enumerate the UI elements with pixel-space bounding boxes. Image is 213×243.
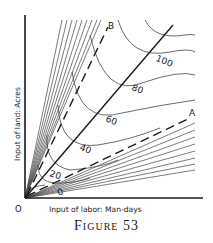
x-axis-label: Input of labor: Man-days (49, 205, 142, 214)
figure-caption: Figure 53 (0, 218, 213, 234)
isoquant-label-20: 20 (48, 168, 62, 181)
expansion-path (25, 25, 173, 198)
ridge-label-b: B (108, 21, 114, 31)
isoquant-label-80: 80 (130, 82, 145, 96)
isoquant-label-60: 60 (104, 114, 119, 128)
y-axis-label: Input of land: Acres (13, 87, 22, 161)
isoquant-label-100: 100 (155, 53, 175, 69)
production-diagram: B A 0 20 40 60 80 100 O Input of labor: … (0, 0, 213, 243)
origin-label: O (15, 204, 22, 214)
isoquant-label-40: 40 (78, 142, 93, 156)
ridge-label-a: A (189, 108, 196, 118)
upper-fan-lines (25, 20, 101, 198)
